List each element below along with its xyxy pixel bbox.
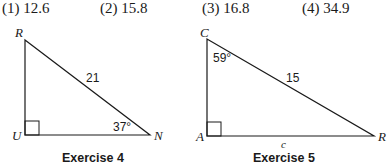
exercise5-figure: C A R 59° 15 c Exercise 5	[195, 25, 386, 165]
exercise4-hypotenuse-label: 21	[86, 71, 100, 85]
exercise4-vertex-u: U	[12, 128, 23, 143]
exercise4-caption: Exercise 4	[62, 151, 124, 165]
exercise5-angle-label: 59°	[213, 51, 231, 65]
exercise5-triangle	[207, 39, 374, 136]
exercise5-caption: Exercise 5	[253, 151, 315, 165]
exercise5-vertex-a: A	[195, 129, 204, 144]
exercise5-vertex-c: C	[200, 25, 209, 40]
exercise4-vertex-r: R	[14, 25, 23, 40]
exercise5-right-angle-mark	[207, 122, 221, 136]
exercise4-triangle	[25, 40, 150, 135]
exercise4-angle-label: 37°	[113, 120, 131, 134]
exercise5-base-label: c	[281, 138, 286, 150]
exercise5-hypotenuse-label: 15	[286, 71, 300, 85]
exercise5-vertex-r: R	[377, 129, 386, 144]
exercise4-figure: R U N 21 37° Exercise 4	[12, 25, 164, 165]
exercise4-right-angle-mark	[25, 121, 39, 135]
exercise4-vertex-n: N	[153, 128, 164, 143]
figures: R U N 21 37° Exercise 4 C A R 59° 15 c E…	[0, 0, 388, 166]
